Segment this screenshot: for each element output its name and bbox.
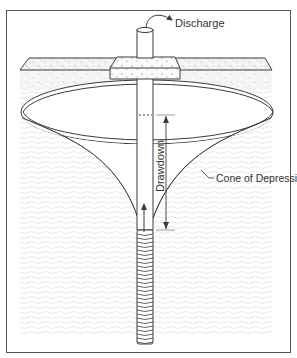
discharge-label: Discharge [175, 17, 225, 29]
discharge-arrow [146, 15, 172, 27]
drawdown-label: Drawdown [154, 140, 166, 192]
discharge-pipe [137, 28, 153, 59]
well-screen [137, 230, 153, 344]
well-casing [137, 60, 153, 230]
cone-label: Cone of Depression [216, 172, 297, 184]
well-diagram: Discharge Drawdown Cone of Depression [0, 0, 297, 358]
